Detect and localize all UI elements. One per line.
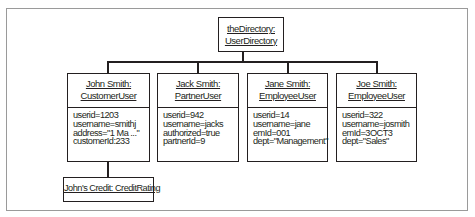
drop-line-joe	[376, 61, 378, 73]
object-box-joe: Joe Smith: EmployeeUser userid=322 usern…	[336, 73, 417, 162]
object-name: Jane Smith:	[248, 78, 327, 90]
root-object-name: theDirectory:	[219, 23, 283, 35]
drop-line-jane	[287, 61, 289, 73]
attribute-list: userid=942 username=jacks authorized=tru…	[163, 111, 223, 146]
attribute: dept="Sales"	[342, 137, 409, 146]
drop-line-jack	[197, 61, 199, 73]
bus-line	[107, 61, 378, 63]
root-object-class: UserDirectory	[219, 35, 283, 47]
object-class: CustomerUser	[68, 90, 149, 102]
attribute: dept="Management"	[253, 137, 328, 146]
object-box-john: John Smith: CustomerUser userid=1203 use…	[67, 73, 150, 162]
compartment-divider	[158, 107, 238, 108]
compartment-divider	[337, 107, 416, 108]
attribute-list: userid=1203 username=smithj address="1 M…	[73, 111, 139, 146]
attribute-list: userid=322 username=josmith emId=3OCT3 d…	[342, 111, 409, 146]
object-name: Jack Smith:	[158, 78, 238, 90]
root-object-box: theDirectory: UserDirectory	[218, 17, 284, 52]
credit-rating-label: John's Credit: CreditRating	[64, 183, 153, 193]
compartment-divider	[248, 107, 327, 108]
object-class: EmployeeUser	[337, 90, 416, 102]
object-name: John Smith:	[68, 78, 149, 90]
object-class: PartnerUser	[158, 90, 238, 102]
object-box-jane: Jane Smith: EmployeeUser userid=14 usern…	[247, 73, 328, 162]
object-class: EmployeeUser	[248, 90, 327, 102]
credit-rating-box: John's Credit: CreditRating	[63, 177, 154, 202]
attribute-list: userid=14 username=jane emId=001 dept="M…	[253, 111, 328, 146]
compartment-divider	[68, 107, 149, 108]
attribute: partnerId=9	[163, 137, 223, 146]
object-name: Joe Smith:	[337, 78, 416, 90]
drop-line-john	[107, 61, 109, 73]
attribute: customerId:233	[73, 137, 139, 146]
object-box-jack: Jack Smith: PartnerUser userid=942 usern…	[157, 73, 239, 162]
credit-link-line	[107, 161, 109, 178]
